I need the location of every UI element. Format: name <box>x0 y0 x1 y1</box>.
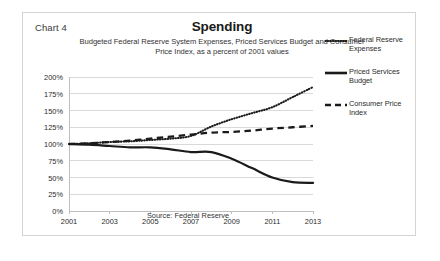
chart-frame: Chart 4 Spending Budgeted Federal Reserv… <box>22 12 416 236</box>
legend-item-label: Federal ReserveExpenses <box>349 35 403 54</box>
legend-swatch-solid <box>325 68 347 78</box>
y-axis-tick-label: 150% <box>44 107 63 116</box>
y-axis-tick-label: 50% <box>48 174 63 183</box>
legend-item[interactable]: Consumer PriceIndex <box>325 99 417 118</box>
y-axis-tick-label: 200% <box>44 73 63 82</box>
y-axis-tick-label: 100% <box>44 140 63 149</box>
chart-subtitle-line-1: Budgeted Federal Reserve System Expenses… <box>80 37 365 46</box>
legend-label-line-1: Consumer Price <box>349 99 401 108</box>
source-note: Source: Federal Reserve <box>23 211 353 220</box>
chart-legend: Federal ReserveExpensesPriced ServicesBu… <box>325 35 417 130</box>
legend-item-label: Consumer PriceIndex <box>349 99 401 118</box>
legend-item[interactable]: Priced ServicesBudget <box>325 67 417 86</box>
y-axis-tick-label: 125% <box>44 123 63 132</box>
legend-label-line-2: Budget <box>349 76 372 85</box>
legend-label-line-1: Priced Services <box>349 67 400 76</box>
legend-swatch-dashed <box>325 100 347 110</box>
chart-subtitle-line-2: Price Index, as a percent of 2001 values <box>155 47 289 56</box>
legend-label-line-1: Federal Reserve <box>349 35 403 44</box>
legend-swatch-dotted <box>325 36 347 46</box>
y-axis-tick-label: 175% <box>44 90 63 99</box>
y-axis-tick-label: 75% <box>48 157 63 166</box>
legend-label-line-2: Index <box>349 108 367 117</box>
series-line-dashed <box>69 126 313 144</box>
legend-item-label: Priced ServicesBudget <box>349 67 400 86</box>
chart-title: Spending <box>63 19 381 35</box>
legend-label-line-2: Expenses <box>349 44 381 53</box>
legend-item[interactable]: Federal ReserveExpenses <box>325 35 417 54</box>
y-axis-tick-label: 25% <box>48 190 63 199</box>
